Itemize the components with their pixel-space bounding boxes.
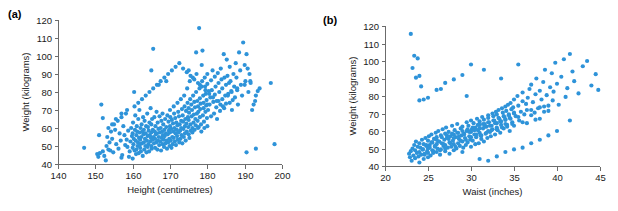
data-point	[422, 157, 426, 161]
data-point	[199, 130, 203, 134]
data-point	[488, 124, 492, 128]
data-point	[129, 126, 133, 130]
data-point	[177, 114, 181, 118]
data-point	[452, 136, 456, 140]
data-point	[565, 86, 569, 90]
data-point	[176, 110, 180, 114]
data-point	[96, 155, 100, 159]
data-point	[144, 94, 148, 98]
data-point	[131, 131, 135, 135]
data-point	[147, 90, 151, 94]
data-point	[417, 74, 421, 78]
data-point	[166, 72, 170, 76]
data-point	[105, 135, 109, 139]
x-tick-label: 190	[238, 170, 254, 181]
data-point	[516, 104, 520, 108]
data-point	[493, 132, 497, 136]
data-point	[141, 115, 145, 119]
data-point	[138, 142, 142, 146]
y-tick-label: 70	[368, 109, 379, 120]
x-axis-title: Height (centimetres)	[127, 184, 213, 195]
data-point	[241, 40, 245, 44]
data-point	[220, 86, 224, 90]
data-point	[466, 124, 470, 128]
y-tick-label: 100	[363, 56, 379, 67]
data-point	[250, 108, 254, 112]
data-point	[116, 147, 120, 151]
data-point	[109, 130, 113, 134]
y-tick-label: 60	[368, 126, 379, 137]
data-point	[230, 90, 234, 94]
data-point	[244, 150, 248, 154]
data-point	[504, 109, 508, 113]
data-point	[236, 103, 240, 107]
data-point	[127, 155, 131, 159]
data-point	[570, 69, 574, 73]
data-point	[253, 99, 257, 103]
data-point	[140, 122, 144, 126]
data-point	[551, 98, 555, 102]
data-point	[169, 146, 173, 150]
data-point	[522, 112, 526, 116]
data-point	[524, 102, 528, 106]
data-point	[424, 143, 428, 147]
data-point	[521, 120, 525, 124]
data-point	[231, 72, 235, 76]
data-point	[503, 150, 507, 154]
data-point	[516, 62, 520, 66]
data-point	[254, 147, 258, 151]
data-point	[119, 115, 123, 119]
data-point	[119, 139, 123, 143]
data-point	[539, 97, 543, 101]
data-point	[568, 118, 572, 122]
data-point	[541, 80, 545, 84]
data-point	[489, 134, 493, 138]
data-point	[511, 105, 515, 109]
data-point	[460, 125, 464, 129]
data-point	[141, 154, 145, 158]
data-point	[525, 108, 529, 112]
data-point	[145, 112, 149, 116]
data-point	[184, 139, 188, 143]
data-point	[164, 79, 168, 83]
panel-a-plot: 4050607080901001101201401501601701801902…	[0, 0, 309, 211]
data-point	[508, 117, 512, 121]
data-point	[203, 88, 207, 92]
data-point	[107, 140, 111, 144]
data-point	[447, 152, 451, 156]
data-point	[465, 94, 469, 98]
data-point	[210, 88, 214, 92]
data-point	[170, 68, 174, 72]
y-tick-label: 80	[41, 87, 52, 98]
data-point	[443, 146, 447, 150]
data-point	[462, 132, 466, 136]
y-axis-title: Weight (kilograms)	[20, 52, 31, 131]
data-point	[484, 131, 488, 135]
data-point	[164, 125, 168, 129]
data-point	[222, 52, 226, 56]
x-tick-label: 180	[200, 170, 216, 181]
data-point	[182, 104, 186, 108]
y-tick-label: 80	[368, 91, 379, 102]
data-point	[142, 128, 146, 132]
y-tick-label: 40	[41, 159, 52, 170]
data-point	[178, 122, 182, 126]
data-point	[529, 83, 533, 87]
data-point	[205, 72, 209, 76]
data-point	[212, 112, 216, 116]
data-point	[125, 138, 129, 142]
data-point	[155, 148, 159, 152]
data-point	[422, 97, 426, 101]
data-point	[160, 112, 164, 116]
data-point	[486, 159, 490, 163]
data-point	[134, 148, 138, 152]
data-point	[228, 65, 232, 69]
data-point	[585, 59, 589, 63]
data-point	[521, 90, 525, 94]
data-point	[495, 154, 499, 158]
data-point	[113, 128, 117, 132]
data-point	[239, 83, 243, 87]
x-tick-label: 45	[595, 172, 606, 183]
data-point	[435, 88, 439, 92]
data-point	[477, 141, 481, 145]
